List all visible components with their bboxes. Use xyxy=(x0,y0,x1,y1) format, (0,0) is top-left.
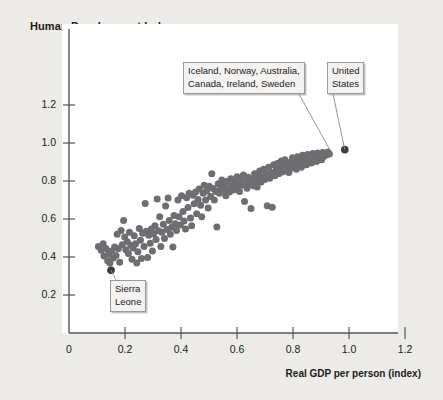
annotation-leader-line xyxy=(299,94,331,152)
data-points xyxy=(95,146,349,274)
x-axis-title: Real GDP per person (index) xyxy=(286,368,421,379)
data-point xyxy=(208,170,215,177)
annotation-top-countries: Iceland, Norway, Australia, Canada, Irel… xyxy=(183,62,305,94)
x-tick-label: 0.6 xyxy=(217,343,257,355)
data-point xyxy=(188,222,195,229)
chart-figure: Human Development Index 00.20.40.60.81.0… xyxy=(0,0,443,400)
data-point xyxy=(162,203,169,210)
data-point xyxy=(236,188,243,195)
data-point xyxy=(156,213,163,220)
data-point xyxy=(211,197,218,204)
data-point xyxy=(141,243,148,250)
data-point xyxy=(205,204,212,211)
x-tick-label: 1.2 xyxy=(385,343,425,355)
data-point xyxy=(113,252,120,259)
annotation-leader-line xyxy=(333,94,345,150)
data-point xyxy=(181,217,188,224)
data-point xyxy=(154,196,161,203)
data-point xyxy=(157,243,164,250)
x-tick-label: 1.0 xyxy=(329,343,369,355)
data-point xyxy=(326,151,333,158)
x-tick-label: 0.8 xyxy=(273,343,313,355)
annotation-united-states: United States xyxy=(327,62,364,94)
data-point xyxy=(197,202,204,209)
data-point xyxy=(131,232,138,239)
y-tick-label: 0.2 xyxy=(20,288,56,300)
annotation-sierra-leone: Sierra Leone xyxy=(110,280,146,312)
data-point xyxy=(165,195,172,202)
data-point xyxy=(137,237,144,244)
y-tick-label: 1.0 xyxy=(20,136,56,148)
y-tick-label: 0.8 xyxy=(20,174,56,186)
data-point xyxy=(213,223,220,230)
chart-canvas xyxy=(0,0,443,400)
data-point xyxy=(169,244,176,251)
x-tick-label: 0 xyxy=(49,343,89,355)
data-point xyxy=(182,225,189,232)
data-point xyxy=(116,259,123,266)
x-tick-label: 0.2 xyxy=(105,343,145,355)
data-point xyxy=(241,198,248,205)
x-tick-label: 0.4 xyxy=(161,343,201,355)
data-point xyxy=(120,217,127,224)
data-point xyxy=(134,248,141,255)
data-point xyxy=(147,240,154,247)
data-point xyxy=(167,231,174,238)
data-point xyxy=(198,213,205,220)
y-tick-label: 1.2 xyxy=(20,98,56,110)
data-point xyxy=(185,204,192,211)
y-tick-label: 0.6 xyxy=(20,212,56,224)
data-point xyxy=(187,215,194,222)
data-point xyxy=(269,204,276,211)
data-point xyxy=(142,200,149,207)
data-point xyxy=(144,254,151,261)
data-point xyxy=(161,235,168,242)
y-tick-label: 0.4 xyxy=(20,250,56,262)
data-point xyxy=(138,255,145,262)
data-point xyxy=(248,205,255,212)
data-point xyxy=(149,247,156,254)
data-point xyxy=(118,227,125,234)
data-point xyxy=(153,236,160,243)
